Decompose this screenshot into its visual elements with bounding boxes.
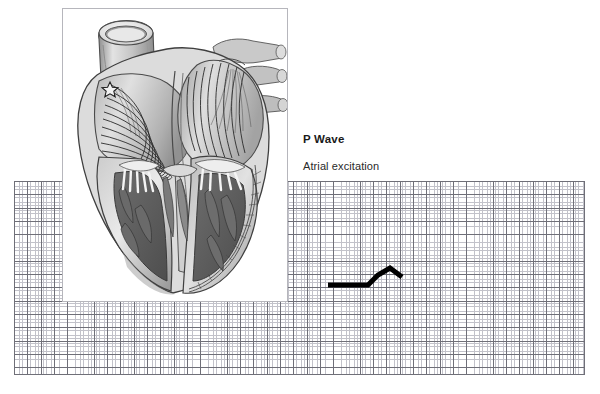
wave-title: P Wave — [303, 132, 483, 146]
wave-label-block: P Wave Atrial excitation — [303, 132, 483, 173]
heart-illustration-panel — [62, 8, 288, 302]
p-wave-polyline — [328, 268, 402, 285]
wave-subtitle: Atrial excitation — [303, 159, 483, 173]
heart-anatomy-diagram — [63, 9, 288, 302]
